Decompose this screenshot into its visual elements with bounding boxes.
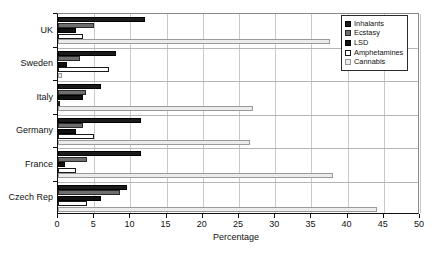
bar-italy-inhalants	[58, 84, 101, 89]
x-axis-title-text: Percentage	[175, 232, 259, 242]
bar-germany-lsd	[58, 129, 76, 134]
figure-caption	[4, 250, 424, 260]
bar-group-germany	[58, 115, 418, 149]
group-separator	[58, 148, 418, 149]
bar-sweden-ecstasy	[58, 56, 80, 61]
x-axis-tick	[238, 214, 239, 218]
x-axis-tick-label: 30	[261, 219, 287, 230]
bar-germany-ecstasy	[58, 123, 83, 128]
bar-uk-ecstasy	[58, 23, 94, 28]
bar-czech-rep-inhalants	[58, 185, 127, 190]
y-axis-tick	[53, 80, 57, 81]
y-axis-label-czech-rep: Czech Rep	[8, 192, 53, 202]
x-axis-tick	[129, 214, 130, 218]
bar-italy-cannabis	[58, 106, 253, 111]
bar-italy-amphetamines	[58, 101, 60, 106]
bar-group-italy	[58, 81, 418, 115]
group-separator	[58, 81, 418, 82]
legend-label: LSD	[354, 39, 368, 47]
legend-swatch-icon	[345, 30, 351, 36]
y-axis-tick	[53, 147, 57, 148]
legend-item-cannabis[interactable]: Cannabis	[345, 57, 403, 67]
bar-sweden-cannabis	[58, 73, 62, 78]
bar-germany-amphetamines	[58, 134, 94, 139]
y-axis-tick	[53, 181, 57, 182]
legend-item-lsd[interactable]: LSD	[345, 38, 403, 48]
x-axis-tick-label: 35	[297, 219, 323, 230]
group-separator	[58, 115, 418, 116]
bar-germany-cannabis	[58, 140, 250, 145]
bar-germany-inhalants	[58, 118, 141, 123]
bar-italy-ecstasy	[58, 90, 86, 95]
y-axis-label-france: France	[25, 159, 53, 169]
x-axis-tick-label: 25	[225, 219, 251, 230]
bar-italy-lsd	[58, 95, 83, 100]
y-axis-label-italy: Italy	[36, 92, 53, 102]
bar-group-czech-rep	[58, 182, 418, 216]
x-axis-tick	[93, 214, 94, 218]
bar-czech-rep-lsd	[58, 196, 101, 201]
y-axis-label-uk: UK	[40, 25, 53, 35]
legend-label: Amphetamines	[354, 49, 403, 57]
x-axis-tick	[310, 214, 311, 218]
bar-sweden-amphetamines	[58, 67, 109, 72]
x-axis-tick-label: 40	[334, 219, 360, 230]
x-axis-tick	[419, 214, 420, 218]
y-axis-tick	[53, 47, 57, 48]
bar-czech-rep-cannabis	[58, 207, 377, 212]
legend-item-ecstasy[interactable]: Ecstasy	[345, 29, 403, 39]
x-axis-tick-label: 10	[116, 219, 142, 230]
group-separator	[58, 182, 418, 183]
legend-item-amphetamines[interactable]: Amphetamines	[345, 48, 403, 58]
bar-sweden-inhalants	[58, 51, 116, 56]
legend-swatch-icon	[345, 21, 351, 27]
legend-swatch-icon	[345, 59, 351, 65]
bar-uk-inhalants	[58, 17, 145, 22]
x-axis-tick-label: 15	[153, 219, 179, 230]
legend-label: Cannabis	[354, 58, 385, 66]
bar-france-ecstasy	[58, 157, 87, 162]
y-axis-label-germany: Germany	[16, 125, 53, 135]
bar-france-inhalants	[58, 151, 141, 156]
bar-uk-cannabis	[58, 39, 330, 44]
bar-uk-amphetamines	[58, 34, 83, 39]
y-axis-tick	[53, 114, 57, 115]
legend-swatch-icon	[345, 50, 351, 56]
x-axis-tick-label: 50	[406, 219, 432, 230]
legend-label: Inhalants	[354, 20, 384, 28]
legend-item-inhalants[interactable]: Inhalants	[345, 19, 403, 29]
bar-france-lsd	[58, 162, 65, 167]
bar-uk-lsd	[58, 28, 76, 33]
bar-sweden-lsd	[58, 62, 67, 67]
x-axis-tick	[274, 214, 275, 218]
x-axis-tick	[347, 214, 348, 218]
x-axis-tick-label: 0	[44, 219, 70, 230]
x-axis-title: Percentage	[0, 232, 434, 242]
bar-czech-rep-ecstasy	[58, 190, 120, 195]
chart-legend: InhalantsEcstasyLSDAmphetaminesCannabis	[341, 15, 408, 71]
x-axis-tick	[202, 214, 203, 218]
gridline	[420, 14, 421, 213]
x-axis-tick	[166, 214, 167, 218]
x-axis-tick-label: 5	[80, 219, 106, 230]
legend-swatch-icon	[345, 40, 351, 46]
bar-czech-rep-amphetamines	[58, 201, 87, 206]
x-axis-tick-label: 45	[370, 219, 396, 230]
bar-france-cannabis	[58, 173, 333, 178]
legend-label: Ecstasy	[354, 29, 380, 37]
y-axis-label-sweden: Sweden	[20, 58, 53, 68]
x-axis-tick	[383, 214, 384, 218]
y-axis-tick	[53, 13, 57, 14]
bar-group-france	[58, 148, 418, 182]
bar-france-amphetamines	[58, 168, 76, 173]
x-axis-tick	[57, 214, 58, 218]
x-axis-tick-label: 20	[189, 219, 215, 230]
bar-chart: UKSwedenItalyGermanyFranceCzech Rep 0510…	[0, 0, 434, 262]
